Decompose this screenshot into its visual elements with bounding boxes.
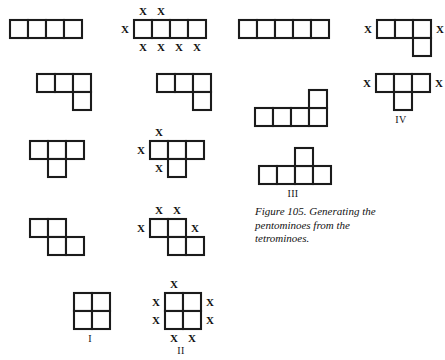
polyomino-cell <box>168 141 186 159</box>
polyomino-cell <box>193 74 211 92</box>
growth-marker-x: X <box>150 297 162 308</box>
polyomino-cell <box>259 166 277 184</box>
polyomino-cell <box>239 20 257 38</box>
polyomino-cell <box>188 20 206 38</box>
growth-marker-x: X <box>135 145 147 156</box>
polyomino-cell <box>150 219 168 237</box>
o-tetromino-marked: XXXXXXXII <box>163 291 203 331</box>
polyomino-cell <box>377 20 395 38</box>
growth-marker-x: X <box>361 78 373 89</box>
shape-label-ii: II <box>177 345 184 356</box>
t-pentomino-iii-grid <box>257 146 333 186</box>
shape-label-iii: III <box>287 188 298 199</box>
polyomino-cell <box>311 20 329 38</box>
growth-marker-x: X <box>362 24 374 35</box>
t-pentomino-marked-grid <box>374 72 432 112</box>
shape-label-i: I <box>88 333 92 344</box>
polyomino-cell <box>186 141 204 159</box>
shape-label-iv: IV <box>395 114 406 125</box>
growth-marker-x: X <box>189 223 201 234</box>
growth-marker-x: X <box>433 78 445 89</box>
polyomino-cell <box>170 20 188 38</box>
t-tetromino-grid <box>28 139 86 179</box>
t-pentomino-marked: XXIV <box>374 72 432 112</box>
polyomino-cell <box>309 108 327 126</box>
polyomino-cell <box>309 90 327 108</box>
growth-marker-x: X <box>137 42 149 53</box>
l-pentomino-long-grid <box>253 88 329 128</box>
l-pentomino-long <box>253 88 329 128</box>
i-tetromino-marked: XXXXXXX <box>132 18 208 40</box>
i-pentomino <box>237 18 331 40</box>
s-tetromino-marked: XXXX <box>148 217 206 257</box>
polyomino-cell <box>157 74 175 92</box>
l-tetromino-second-grid <box>155 72 213 112</box>
figure-canvas: XXXXXXXXXXXIVXXXIIIXXXXIXXXXXXXII Figure… <box>0 0 445 360</box>
growth-marker-x: X <box>135 223 147 234</box>
o-tetromino: I <box>72 291 112 331</box>
polyomino-cell <box>394 92 412 110</box>
growth-marker-x: X <box>153 163 165 174</box>
polyomino-cell <box>295 148 313 166</box>
t-tetromino-marked: XXX <box>148 139 206 179</box>
polyomino-cell <box>395 20 413 38</box>
polyomino-cell <box>30 219 48 237</box>
l-tetromino-grid <box>35 72 93 112</box>
growth-marker-x: X <box>434 24 445 35</box>
o-tetromino-marked-grid <box>163 291 203 331</box>
polyomino-cell <box>66 141 84 159</box>
growth-marker-x: X <box>155 42 167 53</box>
polyomino-cell <box>46 20 64 38</box>
polyomino-cell <box>92 311 110 329</box>
polyomino-cell <box>275 20 293 38</box>
growth-marker-x: X <box>204 315 216 326</box>
s-tetromino <box>28 217 86 257</box>
growth-marker-x: X <box>168 279 180 290</box>
polyomino-cell <box>183 311 201 329</box>
polyomino-cell <box>273 108 291 126</box>
polyomino-cell <box>73 92 91 110</box>
polyomino-cell <box>134 20 152 38</box>
polyomino-cell <box>48 159 66 177</box>
growth-marker-x: X <box>119 24 131 35</box>
polyomino-cell <box>74 311 92 329</box>
growth-marker-x: X <box>186 333 198 344</box>
polyomino-cell <box>168 159 186 177</box>
polyomino-cell <box>412 74 430 92</box>
polyomino-cell <box>255 108 273 126</box>
polyomino-cell <box>165 311 183 329</box>
growth-marker-x: X <box>168 333 180 344</box>
i-tetromino <box>8 18 84 40</box>
polyomino-cell <box>92 293 110 311</box>
polyomino-cell <box>291 108 309 126</box>
polyomino-cell <box>413 20 431 38</box>
polyomino-cell <box>394 74 412 92</box>
polyomino-cell <box>168 237 186 255</box>
growth-marker-x: X <box>153 205 165 216</box>
growth-marker-x: X <box>155 6 167 17</box>
i-pentomino-grid <box>237 18 331 40</box>
polyomino-cell <box>295 166 313 184</box>
polyomino-cell <box>64 20 82 38</box>
o-tetromino-grid <box>72 291 112 331</box>
i-tetromino-marked-grid <box>132 18 208 40</box>
polyomino-cell <box>376 74 394 92</box>
t-tetromino <box>28 139 86 179</box>
polyomino-cell <box>74 293 92 311</box>
polyomino-cell <box>48 141 66 159</box>
polyomino-cell <box>28 20 46 38</box>
l-pentomino-marked-grid <box>375 18 433 58</box>
growth-marker-x: X <box>171 205 183 216</box>
l-tetromino-second <box>155 72 213 112</box>
growth-marker-x: X <box>191 42 203 53</box>
polyomino-cell <box>30 141 48 159</box>
t-pentomino-iii: III <box>257 146 333 186</box>
figure-caption: Figure 105. Generating the pentominoes f… <box>255 205 405 246</box>
polyomino-cell <box>66 237 84 255</box>
polyomino-cell <box>73 74 91 92</box>
polyomino-cell <box>186 237 204 255</box>
polyomino-cell <box>165 293 183 311</box>
polyomino-cell <box>152 20 170 38</box>
polyomino-cell <box>293 20 311 38</box>
polyomino-cell <box>55 74 73 92</box>
